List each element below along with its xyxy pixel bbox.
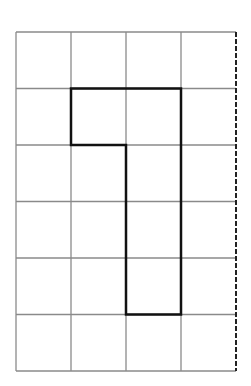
grid-diagram	[0, 0, 251, 386]
